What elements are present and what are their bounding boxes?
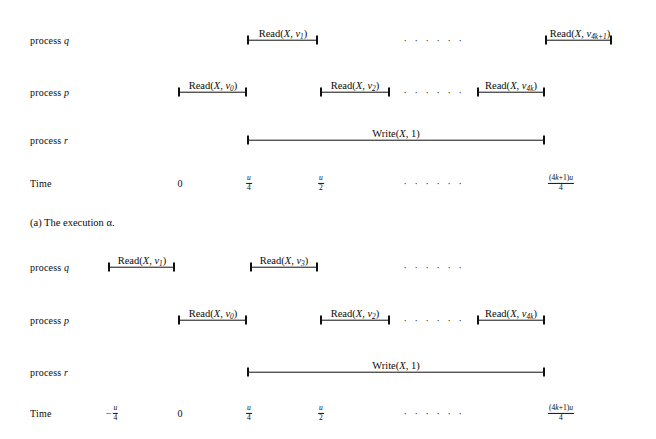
ellipsis-dots: · · · · · · — [403, 408, 464, 419]
interval-end-cap — [543, 368, 545, 377]
interval-end-cap — [543, 316, 545, 325]
interval-end-cap — [316, 36, 318, 45]
operation-label: Read(X, v1) — [259, 28, 308, 39]
operation-label: Read(X, v4k) — [485, 308, 537, 319]
interval-line — [320, 91, 390, 93]
row-label-process-p: process p — [30, 315, 69, 326]
operation-label: Write(X, 1) — [372, 360, 419, 371]
time-tick-label: 0 — [178, 408, 183, 419]
row-label-time-axis: Time — [30, 178, 52, 189]
interval-line — [477, 319, 545, 321]
operation-label: Read(X, v4k) — [485, 80, 537, 91]
time-tick-label: u4 — [246, 404, 252, 422]
interval-line — [247, 371, 545, 373]
operation-label: Read(X, v3) — [260, 255, 309, 266]
time-tick-label: −u4 — [106, 404, 118, 422]
interval-end-cap — [388, 88, 390, 97]
row-label-process-q: process q — [30, 35, 69, 46]
operation-label: Read(X, v0) — [189, 308, 238, 319]
interval-line — [477, 91, 545, 93]
row-label-time-axis: Time — [30, 408, 52, 419]
ellipsis-dots: · · · · · · — [403, 262, 464, 273]
interval-line — [178, 319, 247, 321]
ellipsis-dots: · · · · · · — [403, 35, 464, 46]
row-label-process-r: process r — [30, 135, 68, 146]
figure-caption: (a) The execution α. — [30, 217, 115, 228]
operation-label: Read(X, v2) — [331, 308, 380, 319]
time-tick-label: (4k+1)u4 — [548, 404, 574, 422]
interval-end-cap — [173, 263, 175, 272]
time-tick-label: u4 — [246, 174, 252, 192]
interval-line — [247, 39, 318, 41]
ellipsis-dots: · · · · · · — [403, 87, 464, 98]
operation-label: Read(X, v2) — [331, 80, 380, 91]
interval-line — [108, 266, 175, 268]
interval-end-cap — [245, 316, 247, 325]
interval-line — [250, 266, 318, 268]
interval-end-cap — [543, 136, 545, 145]
ellipsis-dots: · · · · · · — [403, 315, 464, 326]
operation-label: Write(X, 1) — [372, 128, 419, 139]
operation-label: Read(X, v0) — [189, 80, 238, 91]
interval-end-cap — [245, 88, 247, 97]
time-tick-label: (4k+1)u4 — [548, 174, 574, 192]
interval-end-cap — [316, 263, 318, 272]
interval-line — [247, 139, 545, 141]
row-label-process-p: process p — [30, 87, 69, 98]
interval-line — [320, 319, 390, 321]
interval-line — [178, 91, 247, 93]
operation-label: Read(X, v1) — [118, 255, 167, 266]
time-tick-label: u2 — [318, 404, 324, 422]
interval-end-cap — [543, 88, 545, 97]
time-tick-label: 0 — [178, 178, 183, 189]
row-label-process-q: process q — [30, 262, 69, 273]
operation-label: Read(X, v4k+1) — [550, 28, 611, 39]
interval-end-cap — [388, 316, 390, 325]
ellipsis-dots: · · · · · · — [403, 178, 464, 189]
time-tick-label: u2 — [318, 174, 324, 192]
row-label-process-r: process r — [30, 367, 68, 378]
